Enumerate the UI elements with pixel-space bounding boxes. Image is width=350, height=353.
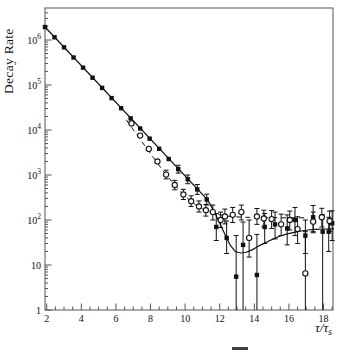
- y-axis-tick-labels: 106105104103102101: [27, 32, 41, 316]
- cropped-caption-mark: [232, 347, 248, 350]
- decay-filled-squares: [43, 25, 335, 279]
- svg-text:104: 104: [27, 122, 41, 136]
- svg-text:10: 10: [31, 260, 41, 271]
- x-axis-ticks: [47, 304, 332, 311]
- y-axis-ticks: [45, 13, 52, 310]
- svg-text:103: 103: [27, 167, 41, 181]
- svg-text:12: 12: [215, 313, 225, 324]
- x-axis-title: τ/τs: [315, 320, 332, 337]
- decay-rate-figure: 10610510410310210124681012141618 Decay R…: [0, 0, 350, 353]
- svg-text:2: 2: [44, 313, 49, 324]
- background-fit-dashed-line: [126, 120, 304, 218]
- svg-text:102: 102: [27, 212, 41, 226]
- plot-box: [45, 8, 333, 310]
- svg-text:4: 4: [79, 313, 84, 324]
- svg-text:1: 1: [36, 305, 41, 316]
- svg-text:14: 14: [249, 313, 259, 324]
- svg-text:8: 8: [148, 313, 153, 324]
- x-axis-title-subscript: s: [328, 327, 332, 337]
- x-axis-title-main: τ/τ: [315, 320, 328, 335]
- svg-text:10: 10: [180, 313, 190, 324]
- background-open-circles: [129, 121, 332, 276]
- x-axis-tick-labels: 24681012141618: [44, 313, 328, 324]
- y-axis-title: Decay Rate: [1, 28, 17, 94]
- chart-svg: 10610510410310210124681012141618: [0, 0, 350, 353]
- svg-text:106: 106: [27, 32, 41, 46]
- svg-text:105: 105: [27, 77, 41, 91]
- svg-text:6: 6: [113, 313, 118, 324]
- svg-text:16: 16: [284, 313, 294, 324]
